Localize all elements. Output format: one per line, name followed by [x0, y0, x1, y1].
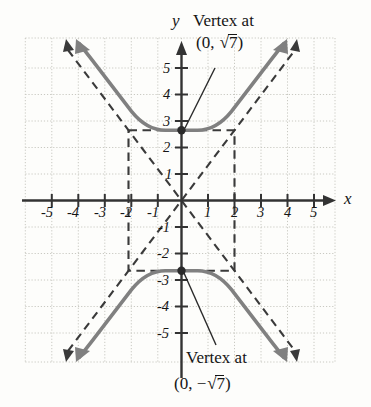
y-tick-label--4: -4: [157, 299, 169, 314]
x-tick-label-4: 4: [284, 205, 291, 220]
y-tick-label-5: 5: [163, 61, 170, 76]
top-vertex-annotation-line2: (0, √7): [196, 34, 243, 51]
y-tick-label-4: 4: [163, 87, 170, 102]
bottom-vertex-annotation-line1: Vertex at: [186, 349, 247, 366]
y-tick-label--3: -3: [157, 273, 169, 288]
y-tick-label-3: 3: [163, 114, 170, 129]
radical-overbar-icon: [228, 34, 237, 35]
x-tick-label--2: -2: [120, 205, 132, 220]
x-tick-label--5: -5: [41, 205, 53, 220]
bottom-vertex-annotation-line2: (0, −√7): [174, 375, 231, 392]
x-tick-label--1: -1: [147, 205, 159, 220]
x-tick-label--4: -4: [67, 205, 79, 220]
x-axis-label: x: [344, 190, 352, 207]
bottom-annotation-radicand: 7: [217, 374, 226, 393]
x-tick-label-5: 5: [310, 205, 317, 220]
hyperbola-figure: y x -5 -4 -3 -2 -1 1 2 3 4 5 5 4 3 2 1 -…: [0, 0, 371, 407]
top-annotation-radical: √7: [219, 33, 238, 52]
vertex-point-upper: [177, 126, 185, 134]
radical-overbar-icon: [215, 375, 224, 376]
bottom-annotation-suffix: ): [225, 374, 231, 393]
top-annotation-radicand: 7: [229, 33, 238, 52]
y-tick-label-1: 1: [165, 167, 172, 182]
top-vertex-annotation-line1: Vertex at: [193, 12, 254, 29]
y-tick-label-2: 2: [163, 140, 170, 155]
top-annotation-prefix: (0,: [196, 33, 219, 52]
y-tick-label--1: -1: [158, 220, 170, 235]
top-annotation-suffix: ): [238, 33, 244, 52]
bottom-annotation-prefix: (0, −: [174, 374, 206, 393]
x-tick-label-3: 3: [257, 205, 264, 220]
y-axis-label: y: [172, 12, 180, 29]
y-tick-label--5: -5: [157, 326, 169, 341]
bottom-annotation-radical: √7: [206, 374, 225, 393]
x-tick-label--3: -3: [94, 205, 106, 220]
x-tick-label-2: 2: [231, 205, 238, 220]
x-tick-label-1: 1: [204, 205, 211, 220]
y-tick-label--2: -2: [157, 246, 169, 261]
